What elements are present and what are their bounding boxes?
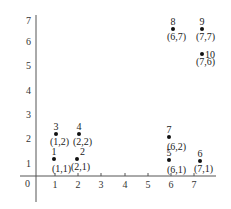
point-10: 10(7,6) <box>196 49 215 69</box>
point-9: 9(7,7) <box>196 16 215 43</box>
point-6: 6(7,1) <box>194 148 213 175</box>
point-number: 7 <box>167 124 172 135</box>
point-dot <box>167 158 171 162</box>
y-tick-label: 6 <box>26 36 31 47</box>
point-7: 7(6,2) <box>167 124 187 153</box>
x-tick-label: 5 <box>146 179 151 190</box>
origin-label: 0 <box>25 178 30 189</box>
x-tick-label: 4 <box>123 179 128 190</box>
point-coordinate-label: (2,1) <box>71 161 90 173</box>
y-axis-ticks: 7654321 <box>26 15 31 169</box>
coordinate-plot: 0 1234567 7654321 1(1,1)2(2,1)3(1,2)4(2,… <box>0 0 231 209</box>
x-tick-label: 2 <box>76 179 81 190</box>
x-tick-label: 6 <box>169 179 174 190</box>
point-8: 8(6,7) <box>167 16 186 43</box>
point-number: 4 <box>77 121 82 132</box>
y-tick-label: 1 <box>26 158 31 169</box>
y-tick-label: 3 <box>26 109 31 120</box>
point-number: 3 <box>54 121 59 132</box>
y-tick-label: 4 <box>26 85 31 96</box>
point-number: 8 <box>171 16 176 27</box>
x-tick-label: 1 <box>53 179 58 190</box>
x-tick-label: 3 <box>99 179 104 190</box>
point-number: 1 <box>52 146 57 157</box>
point-3: 3(1,2) <box>50 121 69 148</box>
point-coordinate-label: (6,7) <box>167 31 186 43</box>
point-dot <box>52 157 56 161</box>
y-tick-label: 2 <box>26 133 31 144</box>
point-number: 2 <box>80 146 85 157</box>
axes: 0 <box>20 15 216 202</box>
point-coordinate-label: (1,2) <box>50 136 69 148</box>
point-4: 4(2,2) <box>73 121 92 148</box>
x-tick-label: 7 <box>192 179 197 190</box>
point-coordinate-label: (7,1) <box>194 163 213 175</box>
point-coordinate-label: (7,6) <box>196 56 215 68</box>
point-coordinate-label: (7,7) <box>196 31 215 43</box>
y-tick-label: 5 <box>26 60 31 71</box>
data-points: 1(1,1)2(2,1)3(1,2)4(2,2)5(6,1)6(7,1)7(6,… <box>50 16 215 176</box>
point-dot <box>167 135 171 139</box>
point-2: 2(2,1) <box>71 146 90 173</box>
point-coordinate-label: (2,2) <box>73 136 92 148</box>
point-coordinate-label: (1,1) <box>52 163 71 175</box>
point-1: 1(1,1) <box>52 146 72 175</box>
point-number: 6 <box>198 148 203 159</box>
point-coordinate-label: (6,2) <box>167 141 186 153</box>
point-number: 9 <box>200 16 205 27</box>
point-coordinate-label: (6,1) <box>167 164 186 176</box>
y-tick-label: 7 <box>26 15 31 26</box>
